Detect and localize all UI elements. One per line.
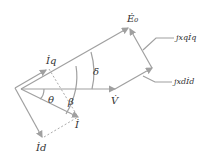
e0-vector <box>21 28 128 89</box>
id-vector <box>15 88 42 137</box>
delta-label: δ <box>93 67 99 77</box>
jxq-iq-vector <box>130 29 152 68</box>
jxq-leader <box>143 38 174 50</box>
jxd-leader <box>143 76 172 82</box>
jxq-iq-label: jxqİq <box>176 33 196 43</box>
iq-vector <box>15 70 46 88</box>
dashed-id-to-i <box>44 117 78 137</box>
e0-label: Ė₀ <box>127 14 138 24</box>
jxd-id-label: jxdİd <box>174 77 194 87</box>
theta-arc <box>40 89 44 99</box>
i-label: İ <box>75 120 79 130</box>
iq-label: İq <box>46 56 56 66</box>
v-label: V̇ <box>111 96 118 106</box>
jxd-id-vector <box>115 68 152 89</box>
beta-label: β <box>68 97 74 107</box>
id-label: İd <box>36 143 46 153</box>
theta-label: θ <box>48 95 54 105</box>
